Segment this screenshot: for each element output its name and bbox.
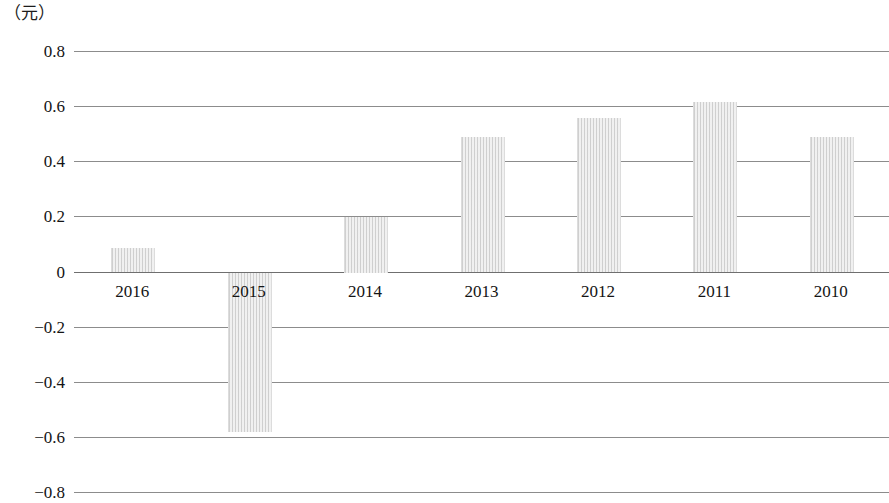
x-axis-tick-label: 2012 <box>538 282 658 302</box>
gridline <box>74 492 889 493</box>
x-axis-tick-label: 2010 <box>771 282 889 302</box>
bar-2013 <box>461 137 505 272</box>
bar-2016 <box>111 248 155 273</box>
y-axis-tick-label: −0.4 <box>0 374 65 391</box>
y-axis-tick-label: 0.6 <box>0 98 65 115</box>
x-axis-tick-label: 2011 <box>654 282 774 302</box>
gridline <box>74 327 889 328</box>
y-axis-tick-label: 0 <box>0 264 65 281</box>
y-axis-tick-label: 0.4 <box>0 153 65 170</box>
gridline <box>74 437 889 438</box>
plot-area: 0.80.60.40.20−0.2−0.4−0.6−0.820162015201… <box>0 0 889 503</box>
x-axis-tick-label: 2015 <box>189 282 309 302</box>
y-axis-tick-label: 0.8 <box>0 43 65 60</box>
gridline <box>74 106 889 107</box>
gridline <box>74 382 889 383</box>
y-axis-tick-label: −0.8 <box>0 484 65 501</box>
y-axis-tick-label: −0.6 <box>0 429 65 446</box>
y-axis-tick-label: −0.2 <box>0 319 65 336</box>
x-axis-tick-label: 2014 <box>305 282 425 302</box>
y-axis-tick-label: 0.2 <box>0 208 65 225</box>
bar-2011 <box>693 102 737 273</box>
gridline <box>74 51 889 52</box>
bar-2012 <box>577 118 621 272</box>
bar-chart: （元） 0.80.60.40.20−0.2−0.4−0.6−0.82016201… <box>0 0 889 503</box>
bar-2010 <box>810 137 854 272</box>
bar-2014 <box>344 217 388 272</box>
x-axis-tick-label: 2013 <box>422 282 542 302</box>
x-axis-tick-label: 2016 <box>72 282 192 302</box>
